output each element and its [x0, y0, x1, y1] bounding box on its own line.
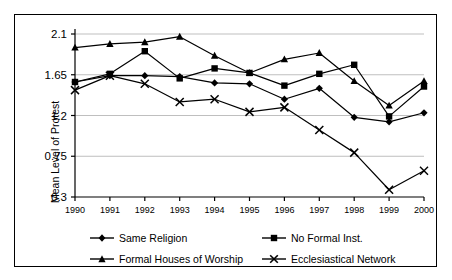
data-point: [141, 72, 148, 79]
x-tick-label: 1994: [205, 205, 225, 215]
series-ecclesiastical-network: [71, 72, 428, 194]
cross-marker-icon: [261, 253, 287, 265]
x-tick-label: 1990: [65, 205, 85, 215]
data-point: [315, 126, 323, 134]
square-marker-icon: [261, 232, 287, 244]
legend-item-ecclesiastical-network[interactable]: Ecclesiastical Network: [261, 248, 395, 269]
data-point: [386, 113, 392, 119]
data-point: [316, 71, 322, 77]
series-formal-houses-of-worship: [71, 33, 427, 109]
x-tick-label: 1998: [344, 205, 364, 215]
x-tick-label: 1999: [379, 205, 399, 215]
data-point: [351, 62, 357, 68]
data-point: [385, 102, 392, 109]
y-tick-label: 2.1: [51, 28, 67, 40]
legend-row-2: Formal Houses of Worship Ecclesiastical …: [71, 248, 421, 269]
chart-frame: Mean Level of Protest 0.30.751.21.652.11…: [14, 14, 437, 267]
diamond-marker-icon: [89, 232, 115, 244]
y-tick-label: 0.75: [45, 150, 67, 162]
data-point: [246, 80, 253, 87]
data-point: [72, 79, 78, 85]
data-point: [142, 48, 148, 54]
x-tick-label: 1997: [309, 205, 329, 215]
legend-row-1: Same Religion No Formal Inst.: [71, 227, 421, 248]
x-tick-label: 2000: [414, 205, 434, 215]
legend-item-no-formal-inst[interactable]: No Formal Inst.: [261, 227, 363, 248]
legend-label: Ecclesiastical Network: [291, 253, 395, 265]
y-tick-label: 1.65: [45, 69, 67, 81]
data-point: [385, 186, 393, 194]
data-point: [211, 79, 218, 86]
series-same-religion: [71, 72, 427, 125]
data-point: [421, 83, 427, 89]
data-point: [141, 80, 149, 88]
data-point: [316, 49, 323, 56]
triangle-marker-icon: [89, 253, 115, 265]
legend-item-formal-houses-of-worship[interactable]: Formal Houses of Worship: [89, 248, 243, 269]
data-point: [211, 52, 218, 59]
data-point: [211, 65, 217, 71]
legend-item-same-religion[interactable]: Same Religion: [89, 227, 187, 248]
legend-label: Formal Houses of Worship: [119, 253, 243, 265]
x-tick-label: 1996: [274, 205, 294, 215]
x-tick-label: 1993: [170, 205, 190, 215]
data-point: [177, 75, 183, 81]
data-point: [350, 149, 358, 157]
data-point: [351, 77, 358, 84]
x-tick-label: 1995: [239, 205, 259, 215]
data-point: [420, 77, 427, 84]
y-tick-label: 1.2: [51, 110, 67, 122]
data-point: [281, 96, 288, 103]
legend-label: No Formal Inst.: [291, 232, 363, 244]
chart-legend: Same Religion No Formal Inst. Formal Hou…: [71, 227, 421, 273]
legend-label: Same Religion: [119, 232, 187, 244]
y-tick-label: 0.3: [51, 191, 67, 203]
data-point: [420, 167, 428, 175]
data-point: [281, 82, 287, 88]
x-tick-label: 1991: [100, 205, 120, 215]
x-tick-label: 1992: [135, 205, 155, 215]
